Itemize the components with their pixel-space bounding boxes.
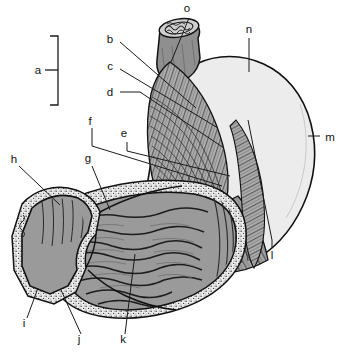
- label-d: d: [107, 86, 113, 98]
- stomach-illustration: a b c d e f g h i j k l m n o: [0, 0, 340, 353]
- label-c: c: [107, 60, 113, 72]
- label-i: i: [23, 317, 26, 329]
- label-o: o: [184, 2, 190, 14]
- label-g: g: [85, 152, 91, 164]
- label-e: e: [121, 127, 127, 139]
- label-b: b: [107, 33, 113, 45]
- label-n: n: [246, 23, 252, 35]
- label-j: j: [77, 333, 81, 345]
- anatomy-figure: a b c d e f g h i j k l m n o: [0, 0, 340, 353]
- label-h: h: [11, 153, 17, 165]
- label-a: a: [35, 64, 42, 76]
- label-l: l: [271, 249, 274, 261]
- label-k: k: [120, 333, 126, 345]
- label-m: m: [325, 131, 335, 143]
